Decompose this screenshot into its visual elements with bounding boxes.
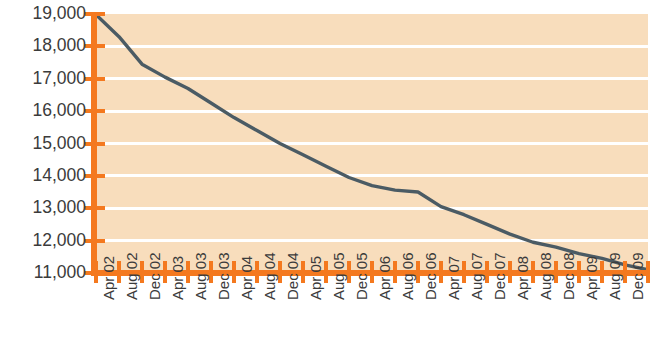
- x-axis-tick: [186, 261, 190, 283]
- x-axis-tick: [485, 261, 489, 283]
- data-series-line: [96, 15, 648, 270]
- x-axis-label: Dec 09: [631, 286, 645, 300]
- x-axis-tick: [209, 261, 213, 283]
- data-line-svg: [96, 14, 648, 273]
- x-axis-label: Dec 06: [424, 286, 438, 300]
- x-axis-label: Apr 08: [516, 286, 530, 300]
- x-axis-label: Dec 04: [286, 286, 300, 300]
- x-axis-label: Dec 02: [148, 286, 162, 300]
- y-axis-label: 18,000: [6, 37, 86, 55]
- y-axis-tick: [85, 44, 105, 48]
- y-axis-tick: [85, 109, 105, 113]
- x-axis-tick: [439, 261, 443, 283]
- x-axis-label: Aug 07: [470, 286, 484, 300]
- x-axis-label: Dec 07: [493, 286, 507, 300]
- y-axis-tick: [85, 206, 105, 210]
- y-axis-label: 15,000: [6, 135, 86, 153]
- y-axis-label: 17,000: [6, 70, 86, 88]
- x-axis-label: Apr 03: [171, 286, 185, 300]
- x-axis-tick: [623, 261, 627, 283]
- x-axis-label: Aug 06: [401, 286, 415, 300]
- y-axis-tick: [85, 174, 105, 178]
- x-axis-tick: [646, 261, 650, 283]
- x-axis-tick: [278, 261, 282, 283]
- x-axis-tick: [370, 261, 374, 283]
- y-axis-label: 12,000: [6, 232, 86, 250]
- x-axis-tick: [140, 261, 144, 283]
- x-axis-label: Aug 08: [539, 286, 553, 300]
- x-axis-tick: [94, 261, 98, 283]
- x-axis-label: Apr 09: [585, 286, 599, 300]
- x-axis-tick: [508, 261, 512, 283]
- x-axis-tick: [416, 261, 420, 283]
- x-axis-label: Aug 03: [194, 286, 208, 300]
- y-axis-tick: [85, 12, 105, 16]
- y-axis-label: 14,000: [6, 167, 86, 185]
- y-axis-label: 16,000: [6, 102, 86, 120]
- x-axis-tick: [462, 261, 466, 283]
- line-chart: 19,00018,00017,00016,00015,00014,00013,0…: [0, 0, 654, 352]
- y-axis-tick: [85, 239, 105, 243]
- y-axis-tick: [85, 77, 105, 81]
- y-axis-tick: [85, 142, 105, 146]
- x-axis-tick: [347, 261, 351, 283]
- x-axis-tick: [600, 261, 604, 283]
- x-axis-tick: [577, 261, 581, 283]
- x-axis-tick: [117, 261, 121, 283]
- x-axis-label: Aug 05: [332, 286, 346, 300]
- x-axis-label: Apr 04: [240, 286, 254, 300]
- x-axis-tick: [301, 261, 305, 283]
- x-axis-label: Dec 08: [562, 286, 576, 300]
- x-axis-tick: [163, 261, 167, 283]
- plot-area: [96, 14, 648, 273]
- x-axis-tick: [531, 261, 535, 283]
- x-axis-label: Apr 07: [447, 286, 461, 300]
- x-axis-label: Aug 02: [125, 286, 139, 300]
- x-axis-tick: [554, 261, 558, 283]
- x-axis-tick: [232, 261, 236, 283]
- y-axis-label: 13,000: [6, 199, 86, 217]
- y-axis-label: 11,000: [6, 264, 86, 282]
- x-axis-label: Apr 06: [378, 286, 392, 300]
- x-axis-label: Dec 05: [355, 286, 369, 300]
- x-axis-label: Aug 04: [263, 286, 277, 300]
- x-axis-tick: [255, 261, 259, 283]
- x-axis-tick: [324, 261, 328, 283]
- x-axis-tick: [393, 261, 397, 283]
- x-axis-label: Apr 02: [102, 286, 116, 300]
- x-axis-label: Apr 05: [309, 286, 323, 300]
- y-axis-label: 19,000: [6, 5, 86, 23]
- x-axis-label: Aug 09: [608, 286, 622, 300]
- x-axis-label: Dec 03: [217, 286, 231, 300]
